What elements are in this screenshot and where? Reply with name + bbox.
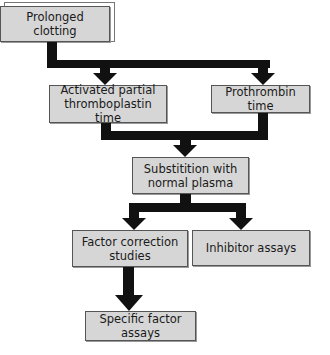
connector [129, 203, 139, 219]
arrow-down-icon [173, 145, 197, 157]
node-inhibitor-assays: Inhibitor assays [192, 230, 310, 266]
node-label: Specific factor assays [86, 312, 195, 340]
connector [100, 60, 110, 74]
connector [236, 203, 246, 219]
node-label: Factor correction studies [73, 235, 187, 263]
node-prolonged-clotting: Prolonged clotting [0, 6, 110, 42]
connector [129, 203, 246, 212]
node-label: Substitition with normal plasma [133, 162, 248, 190]
node-substitution: Substitition with normal plasma [132, 157, 249, 194]
node-label: Prothrombin time [212, 85, 309, 113]
flowchart: Prolonged clotting Activated partial thr… [0, 0, 330, 355]
arrow-down-icon [229, 218, 253, 230]
node-factor-correction: Factor correction studies [72, 230, 188, 267]
arrow-down-icon [122, 218, 146, 230]
arrow-down-icon [115, 295, 143, 311]
connector [47, 60, 270, 68]
arrow-down-icon [251, 73, 275, 85]
node-label: Prolonged clotting [1, 10, 109, 38]
connector [123, 267, 134, 297]
node-prothrombin-time: Prothrombin time [211, 85, 310, 113]
node-label: Inhibitor assays [203, 241, 299, 255]
node-specific-factor-assays: Specific factor assays [85, 311, 196, 341]
node-aptt: Activated partial thromboplastin time [49, 85, 167, 123]
connector [258, 60, 268, 74]
node-label: Activated partial thromboplastin time [50, 83, 166, 125]
